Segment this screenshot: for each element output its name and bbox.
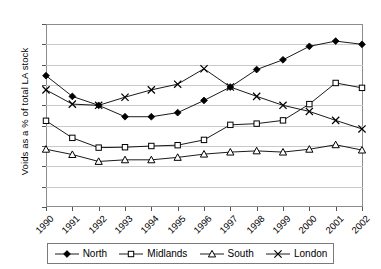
voids-line-chart: Voids as a % of total LA stock 0.00.51.0… (0, 0, 381, 269)
x-tick-mark (204, 207, 205, 211)
data-series-layer (46, 24, 363, 207)
x-tick-label: 1997 (210, 213, 240, 243)
x-tick-mark (283, 207, 284, 211)
x-tick-label: 1990 (25, 213, 55, 243)
data-point-cross (358, 125, 365, 132)
x-tick-mark (151, 207, 152, 211)
x-tick-mark (178, 207, 179, 211)
x-tick-label: 2000 (289, 213, 319, 243)
data-point-cross (148, 86, 155, 93)
data-point-open-square (201, 137, 206, 142)
x-tick-label: 1992 (78, 213, 108, 243)
y-axis-title: Voids as a % of total LA stock (19, 19, 30, 205)
x-tick-mark (309, 207, 310, 211)
chart-legend: NorthMidlandsSouthLondon (47, 243, 334, 264)
x-tick-label: 1995 (157, 213, 187, 243)
data-point-filled-diamond (122, 113, 129, 120)
x-tick-label: 1996 (183, 213, 213, 243)
legend-item-south[interactable]: South (199, 248, 254, 260)
data-point-filled-diamond (359, 41, 366, 48)
legend-item-london[interactable]: London (265, 248, 327, 260)
data-point-open-square (129, 251, 134, 256)
x-tick-mark (99, 207, 100, 211)
x-tick-label: 2001 (315, 213, 345, 243)
data-point-cross (174, 81, 181, 88)
data-point-open-square (307, 101, 312, 106)
data-point-open-square (333, 80, 338, 85)
legend-label: North (83, 248, 107, 259)
legend-marker-cross-icon (265, 248, 291, 260)
data-point-filled-diamond (174, 109, 181, 116)
data-point-open-square (43, 118, 48, 123)
legend-item-north[interactable]: North (54, 248, 107, 260)
data-point-cross (279, 102, 286, 109)
legend-item-midlands[interactable]: Midlands (118, 248, 187, 260)
x-tick-mark (362, 207, 363, 211)
x-tick-mark (257, 207, 258, 211)
data-point-open-square (70, 135, 75, 140)
data-point-open-square (280, 118, 285, 123)
x-tick-mark (230, 207, 231, 211)
data-point-filled-diamond (253, 66, 260, 73)
x-tick-mark (46, 207, 47, 211)
data-point-filled-diamond (201, 97, 208, 104)
legend-marker-filled-diamond-icon (54, 248, 80, 260)
data-point-cross (253, 93, 260, 100)
legend-marker-open-square-icon (118, 248, 144, 260)
legend-label: Midlands (147, 248, 187, 259)
data-point-open-square (149, 143, 154, 148)
x-tick-mark (72, 207, 73, 211)
x-tick-mark (336, 207, 337, 211)
data-point-open-triangle (332, 141, 339, 148)
data-point-open-square (122, 145, 127, 150)
data-point-open-square (359, 85, 364, 90)
data-point-filled-diamond (63, 250, 70, 257)
data-point-cross (42, 86, 49, 93)
legend-marker-open-triangle-icon (199, 248, 225, 260)
data-point-cross (121, 94, 128, 101)
data-point-open-square (96, 145, 101, 150)
plot-area: 0.00.51.01.52.02.53.03.54.04.5 (46, 24, 363, 207)
x-tick-label: 1993 (104, 213, 134, 243)
data-point-open-square (254, 121, 259, 126)
x-tick-mark (125, 207, 126, 211)
data-point-cross (332, 117, 339, 124)
x-tick-label: 1998 (236, 213, 266, 243)
data-point-cross (200, 65, 207, 72)
legend-label: South (228, 248, 254, 259)
data-point-cross (306, 108, 313, 115)
x-tick-label: 1994 (131, 213, 161, 243)
data-point-filled-diamond (332, 38, 339, 45)
data-point-filled-diamond (280, 56, 287, 63)
data-point-filled-diamond (148, 113, 155, 120)
x-tick-label: 1999 (262, 213, 292, 243)
data-point-filled-diamond (306, 43, 313, 50)
data-point-open-square (228, 122, 233, 127)
x-tick-label: 2002 (341, 213, 371, 243)
x-tick-label: 1991 (52, 213, 82, 243)
legend-label: London (294, 248, 327, 259)
data-point-open-square (175, 142, 180, 147)
